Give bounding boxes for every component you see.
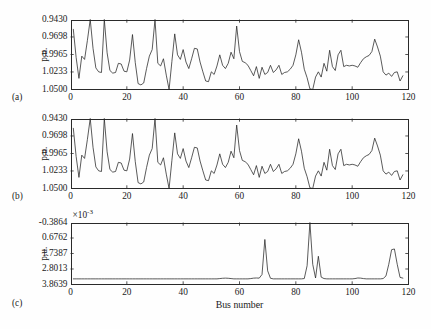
x-tick-label-a: 100 [332,93,372,102]
x-tick-label-c: 60 [220,288,260,297]
y-tick-label-b: 0.9698 [42,131,68,140]
x-tick-label-c: 80 [276,288,316,297]
y-tick-label-a: 0.9698 [42,32,68,41]
figure-voltage-profiles: p.u. (a) p.u. (b) p.u. (c) ×10-3 Bus num… [0,0,431,329]
x-tick-label-c: 20 [107,288,147,297]
y-axis-exponent-power: -3 [87,208,93,216]
x-tick-label-b: 0 [51,192,91,201]
y-tick-label-c: 0.6762 [42,233,68,242]
y-tick-label-b: 0.9965 [42,149,68,158]
x-tick-label-a: 120 [389,93,429,102]
x-tick-label-a: 40 [163,93,203,102]
y-axis-exponent-c: ×10-3 [73,209,93,220]
x-tick-label-c: 100 [332,288,372,297]
y-tick-label-b: 0.9430 [42,114,68,123]
x-tick-label-b: 100 [332,192,372,201]
x-tick-label-a: 80 [276,93,316,102]
x-tick-label-b: 60 [220,192,260,201]
x-tick-label-b: 40 [163,192,203,201]
x-tick-label-b: 20 [107,192,147,201]
x-tick-label-a: 0 [51,93,91,102]
x-axis-title: Bus number [71,300,409,310]
y-tick-label-b: 1.0233 [42,166,68,175]
x-tick-label-c: 0 [51,288,91,297]
x-tick-label-c: 40 [163,288,203,297]
y-tick-label-a: 0.9965 [42,50,68,59]
panel-tag-c: (c) [12,299,22,308]
x-tick-label-b: 80 [276,192,316,201]
x-tick-label-a: 60 [220,93,260,102]
y-tick-label-c: 2.8013 [42,264,68,273]
x-tick-label-b: 120 [389,192,429,201]
y-tick-label-a: 0.9430 [42,15,68,24]
y-tick-label-a: 1.0233 [42,67,68,76]
y-tick-label-c: 1.7387 [42,249,68,258]
y-tick-label-c: -0.3864 [39,218,68,227]
x-tick-label-a: 20 [107,93,147,102]
x-tick-label-c: 120 [389,288,429,297]
